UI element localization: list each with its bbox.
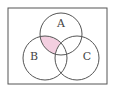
- label-c: C: [83, 50, 91, 63]
- venn-diagram: A B C: [0, 0, 114, 89]
- label-b: B: [30, 50, 38, 63]
- label-a: A: [56, 17, 66, 30]
- circle-c: [55, 36, 99, 80]
